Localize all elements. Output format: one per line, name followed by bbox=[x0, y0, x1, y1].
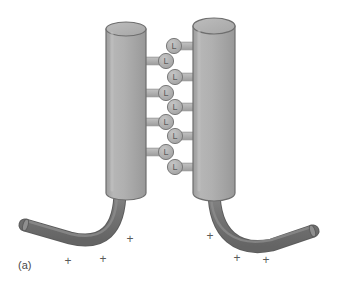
right-helix-cylinder bbox=[193, 18, 235, 201]
charge-symbol: + bbox=[126, 232, 133, 246]
linker-glyph-label: L bbox=[163, 56, 168, 66]
linker-knob: L bbox=[167, 159, 182, 174]
linker-glyph-label: L bbox=[172, 131, 177, 141]
linker-knob: L bbox=[167, 69, 182, 84]
charge-symbol: + bbox=[233, 251, 240, 265]
linker-knob: L bbox=[158, 85, 173, 100]
linker-knob: L bbox=[167, 128, 182, 143]
charge-symbol: + bbox=[262, 253, 269, 267]
linker-knob: L bbox=[158, 144, 173, 159]
left-helix-cylinder bbox=[106, 22, 146, 200]
left-tail bbox=[21, 190, 120, 240]
linker-knob: L bbox=[167, 99, 182, 114]
figure-container: L L L L L bbox=[0, 0, 339, 303]
linker-glyph-label: L bbox=[172, 162, 177, 172]
linker-glyph-label: L bbox=[172, 72, 177, 82]
charge-symbol: + bbox=[206, 229, 213, 243]
linker-glyph-label: L bbox=[172, 102, 177, 112]
linker-glyph-label: L bbox=[163, 117, 168, 127]
linker-glyph-label: L bbox=[163, 88, 168, 98]
charge-symbol: + bbox=[99, 252, 106, 266]
panel-label: (a) bbox=[18, 259, 31, 271]
linker-knobs: L L L L L bbox=[158, 38, 182, 174]
linker-knob: L bbox=[158, 114, 173, 129]
charge-symbol: + bbox=[64, 254, 71, 268]
linker-glyph-label: L bbox=[163, 147, 168, 157]
linker-glyph-label: L bbox=[171, 41, 176, 51]
linker-knob: L bbox=[158, 53, 173, 68]
linker-knob: L bbox=[166, 38, 181, 53]
diagram-canvas: L L L L L bbox=[0, 0, 339, 303]
